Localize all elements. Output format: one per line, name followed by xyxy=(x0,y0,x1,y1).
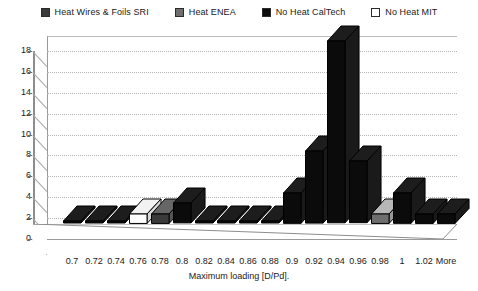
bar-0.86 xyxy=(239,205,257,224)
bar-0.98 xyxy=(371,199,389,224)
legend-label: No Heat CalTech xyxy=(276,8,346,17)
chart-legend: Heat Wires & Foils SRIHeat ENEANo Heat C… xyxy=(0,4,478,20)
x-axis-title: Maximum loading [D/Pd]. xyxy=(0,271,478,281)
legend-swatch-icon xyxy=(262,8,271,17)
bar-0.8 xyxy=(173,188,191,224)
legend-swatch-icon xyxy=(175,8,184,17)
y-axis-line xyxy=(33,51,35,239)
y-tick-mark xyxy=(28,93,32,94)
legend-item-mit: No Heat MIT xyxy=(371,8,437,17)
bar-1.02 xyxy=(415,199,433,224)
legend-item-sri: Heat Wires & Foils SRI xyxy=(41,8,149,17)
histogram-chart: Heat Wires & Foils SRIHeat ENEANo Heat C… xyxy=(0,0,478,291)
bar-0.9 xyxy=(283,178,301,224)
bar-0.88 xyxy=(261,205,279,224)
bar-More xyxy=(437,199,455,224)
bar-0.74 xyxy=(107,205,125,224)
y-tick-mark xyxy=(28,135,32,136)
bar-series xyxy=(47,36,457,239)
y-axis-ticks: 024681012141618 xyxy=(0,36,31,254)
bar-0.82 xyxy=(195,205,213,224)
bar-0.72 xyxy=(85,205,103,224)
plot-side-wall xyxy=(33,36,48,254)
bar-0.84 xyxy=(217,205,235,224)
bar-0.94 xyxy=(327,26,345,224)
y-tick-mark xyxy=(28,176,32,177)
y-tick-mark xyxy=(28,239,32,240)
legend-label: Heat Wires & Foils SRI xyxy=(55,8,149,17)
bar-0.7 xyxy=(63,205,81,224)
y-tick-mark xyxy=(28,114,32,115)
y-tick-mark xyxy=(28,155,32,156)
legend-label: No Heat MIT xyxy=(385,8,437,17)
bar-0.76 xyxy=(129,199,147,224)
legend-item-caltech: No Heat CalTech xyxy=(262,8,346,17)
gridline xyxy=(47,239,457,240)
y-tick-mark xyxy=(28,51,32,52)
bar-0.96 xyxy=(349,146,367,224)
y-tick-mark xyxy=(28,197,32,198)
bar-1 xyxy=(393,178,411,224)
legend-swatch-icon xyxy=(371,8,380,17)
y-tick-mark xyxy=(28,218,32,219)
x-axis-ticks: 0.70.720.740.760.780.80.820.840.860.880.… xyxy=(33,256,457,270)
legend-item-enea: Heat ENEA xyxy=(175,8,236,17)
legend-swatch-icon xyxy=(41,8,50,17)
x-tick-label: More xyxy=(428,256,464,266)
bar-0.78 xyxy=(151,199,169,224)
bar-0.92 xyxy=(305,136,323,224)
y-tick-mark xyxy=(28,72,32,73)
legend-label: Heat ENEA xyxy=(189,8,236,17)
